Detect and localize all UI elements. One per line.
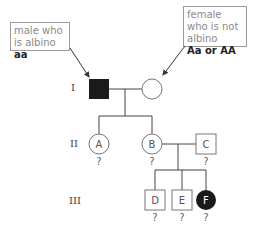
individual-B: B ? bbox=[142, 134, 162, 167]
svg-text:D: D bbox=[151, 195, 159, 206]
svg-text:?: ? bbox=[152, 212, 157, 223]
individual-D: D ? bbox=[145, 190, 165, 223]
svg-text:?: ? bbox=[149, 156, 154, 167]
svg-text:?: ? bbox=[179, 212, 184, 223]
svg-text:?: ? bbox=[203, 156, 208, 167]
svg-text:B: B bbox=[149, 139, 156, 150]
svg-text:E: E bbox=[179, 195, 185, 206]
individual-E: E ? bbox=[172, 190, 192, 223]
male-callout-arrow bbox=[70, 48, 89, 77]
female-callout-arrow bbox=[163, 46, 185, 75]
affected-male-gen1 bbox=[89, 79, 109, 99]
individual-F: F ? bbox=[196, 190, 216, 223]
pedigree-chart: A ? B ? C ? D ? E ? F ? bbox=[0, 0, 256, 228]
svg-text:?: ? bbox=[96, 156, 101, 167]
unaffected-female-gen1 bbox=[142, 79, 162, 99]
svg-text:A: A bbox=[96, 139, 103, 150]
svg-text:F: F bbox=[203, 195, 209, 206]
svg-text:C: C bbox=[203, 139, 210, 150]
individual-C: C ? bbox=[196, 134, 216, 167]
individual-A: A ? bbox=[89, 134, 109, 167]
svg-text:?: ? bbox=[203, 212, 208, 223]
